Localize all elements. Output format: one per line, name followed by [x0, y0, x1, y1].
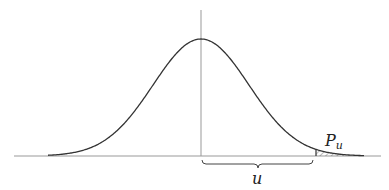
distance-brace	[202, 160, 313, 168]
normal-distribution-diagram: Pu u	[0, 0, 389, 190]
bell-curve	[48, 39, 364, 156]
tail-area-label: Pu	[324, 131, 343, 152]
distance-label: u	[252, 169, 262, 188]
